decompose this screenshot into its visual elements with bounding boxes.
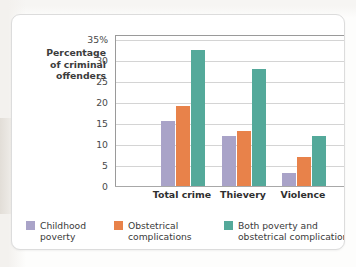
bar-group xyxy=(161,35,205,186)
legend-label-line: obstetrical complications xyxy=(238,231,345,242)
legend-label: Obstetricalcomplications xyxy=(128,220,192,243)
y-axis-tick-label: 35% xyxy=(74,34,108,45)
bar-group xyxy=(282,35,326,186)
legend-swatch xyxy=(114,221,123,230)
bar[interactable] xyxy=(282,173,296,186)
bar[interactable] xyxy=(161,121,175,186)
y-axis-tick-label: 30 xyxy=(74,55,108,66)
legend-label: Childhoodpoverty xyxy=(40,220,86,243)
y-axis-tick-label: 10 xyxy=(74,139,108,150)
chart-legend: ChildhoodpovertyObstetricalcomplications… xyxy=(26,220,336,250)
y-axis-tick-label: 0 xyxy=(74,181,108,192)
x-axis-line xyxy=(115,186,345,187)
x-axis-tick-label: Thievery xyxy=(220,189,266,200)
bar[interactable] xyxy=(312,136,326,186)
bar[interactable] xyxy=(297,157,311,186)
plot-area xyxy=(115,35,345,186)
bar[interactable] xyxy=(237,131,251,186)
legend-item[interactable]: Obstetricalcomplications xyxy=(114,220,218,243)
x-axis-tick-label: Total crime xyxy=(153,189,211,200)
chart-card: Percentage of criminal offenders 0510152… xyxy=(11,14,345,250)
y-axis-tick-label: 20 xyxy=(74,97,108,108)
bar[interactable] xyxy=(222,136,236,186)
y-axis-tick-label: 25 xyxy=(74,76,108,87)
legend-label-line: poverty xyxy=(40,231,86,242)
bar[interactable] xyxy=(191,50,205,186)
legend-label: Both poverty andobstetrical complication… xyxy=(238,220,345,243)
x-axis-tick-label: Violence xyxy=(281,189,326,200)
y-axis-tick-label: 15 xyxy=(74,118,108,129)
y-axis-tick-label: 5 xyxy=(74,160,108,171)
bar-group xyxy=(222,35,266,186)
legend-swatch xyxy=(224,221,233,230)
bar[interactable] xyxy=(176,106,190,186)
legend-item[interactable]: Childhoodpoverty xyxy=(26,220,112,243)
legend-swatch xyxy=(26,221,35,230)
legend-item[interactable]: Both poverty andobstetrical complication… xyxy=(224,220,345,243)
bar[interactable] xyxy=(252,69,266,186)
legend-label-line: Obstetrical xyxy=(128,220,192,231)
legend-label-line: complications xyxy=(128,231,192,242)
legend-label-line: Both poverty and xyxy=(238,220,345,231)
legend-label-line: Childhood xyxy=(40,220,86,231)
